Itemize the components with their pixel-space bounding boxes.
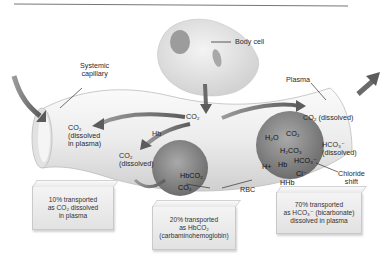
cell-nucleus <box>170 30 190 54</box>
hco3-line-2: (dissolved) <box>322 149 357 157</box>
hco3-dissolved-label: HCO₃⁻ (dissolved) <box>322 141 357 157</box>
plasma-label: Plasma <box>286 76 310 84</box>
co2-dissolved-left-label: CO₂ (dissolved) <box>119 152 154 168</box>
co2-source-label: CO₂ <box>186 113 200 121</box>
top-rule <box>14 4 348 6</box>
co2-dissolved-right-label: CO₂ (dissolved) <box>303 114 353 122</box>
h2o-label: H₂O <box>265 134 279 142</box>
box3-line3: dissolved in plasma <box>277 217 361 225</box>
outflow-arrow <box>358 80 374 94</box>
box-text: 70% transported as HCO₃⁻ (bicarbonate) d… <box>277 201 361 225</box>
chloride-shift-label: Chloride shift <box>338 170 365 186</box>
co2-left-line-2: (dissolved) <box>119 160 154 168</box>
box-text: 10% transported as CO₂ dissolved in plas… <box>33 196 113 220</box>
box1-line1: 10% transported <box>33 196 113 204</box>
body-cell <box>158 19 259 96</box>
box2-line3: (carbaminohemoglobin) <box>153 232 235 240</box>
box1-line3: in plasma <box>33 212 113 220</box>
hco3-inner-label: HCO₃⁻ <box>294 157 317 165</box>
body-cell-label: Body cell <box>235 38 264 46</box>
box-top <box>276 186 367 193</box>
co2-inner-label: CO₂ <box>286 130 300 138</box>
info-box-carbamino: 20% transported as HbCO₂ (carbaminohemog… <box>152 206 236 250</box>
box3-line1: 70% transported <box>277 201 361 209</box>
hb-label: Hb <box>152 130 161 138</box>
chloride-line-2: shift <box>338 178 365 186</box>
h2co3-label: H₂CO₃ <box>280 147 302 155</box>
info-box-dissolved: 10% transported as CO₂ dissolved in plas… <box>32 186 114 230</box>
cl-minus-label: Cl⁻ <box>296 170 307 178</box>
box2-line1: 20% transported <box>153 216 235 224</box>
co2-dissolved-plasma-label: CO₂ (dissolved in plasma) <box>68 124 101 148</box>
box2-line2: as HbCO₂ <box>153 224 235 232</box>
capillary-line-2: capillary <box>80 70 109 78</box>
box-top <box>32 180 119 187</box>
hb-inner-label: Hb <box>278 161 287 169</box>
box-text: 20% transported as HbCO₂ (carbaminohemog… <box>153 216 235 240</box>
h-plus-label: H+ <box>262 163 271 171</box>
co2-rbc-label: CO₂ <box>178 184 192 192</box>
co2-transport-diagram: Body cell Systemic capillary Plasma CO₂ … <box>0 0 388 262</box>
rbc-label: RBC <box>240 186 255 194</box>
cell-to-co2-arrow <box>205 84 206 106</box>
box1-line2: as CO₂ dissolved <box>33 204 113 212</box>
systemic-capillary-label: Systemic capillary <box>80 62 109 78</box>
co2-plasma-line-3: in plasma) <box>68 140 101 148</box>
box-top <box>152 200 241 207</box>
hbco2-label: HbCO₂ <box>180 172 203 180</box>
inflow-arrow <box>14 76 40 116</box>
box3-line2: as HCO₃⁻ (bicarbonate) <box>277 209 361 217</box>
info-box-bicarbonate: 70% transported as HCO₃⁻ (bicarbonate) d… <box>276 192 362 234</box>
